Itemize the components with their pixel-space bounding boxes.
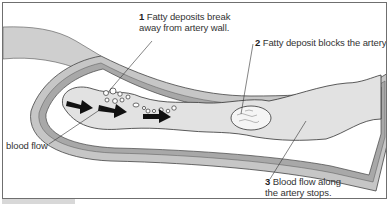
blood-flow-text: blood flow — [6, 140, 48, 151]
label-1: 1 Fatty deposits break away from artery … — [139, 11, 230, 33]
label-3: 3 Blood flow along the artery stops. — [265, 176, 341, 198]
label-2-text: Fatty deposit blocks the artery. — [263, 37, 387, 48]
bottom-tab-strip — [2, 199, 75, 204]
fatty-deposit-blockage — [231, 106, 271, 130]
label-1-line1: Fatty deposits break — [147, 11, 231, 22]
diagram-frame: 1 Fatty deposits break away from artery … — [2, 2, 387, 199]
label-blood-flow: blood flow — [6, 140, 48, 151]
label-2-number: 2 — [255, 37, 260, 48]
label-3-line2: the artery stops. — [265, 187, 331, 198]
label-3-number: 3 — [265, 176, 270, 187]
label-2: 2 Fatty deposit blocks the artery. — [255, 37, 387, 48]
label-1-number: 1 — [139, 11, 144, 22]
label-3-line1: Blood flow along — [273, 176, 341, 187]
label-1-line2: away from artery wall. — [139, 22, 229, 33]
